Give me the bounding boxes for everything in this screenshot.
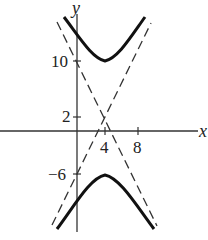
y-tick-label-neg6: −6 <box>48 165 66 184</box>
hyperbola-lower-branch <box>57 175 154 229</box>
y-tick-label-10: 10 <box>51 52 68 71</box>
asymptote-negative-slope <box>57 22 157 226</box>
x-tick-label-8: 8 <box>133 138 142 157</box>
y-tick-label-2: 2 <box>62 107 71 126</box>
x-tick-label-4: 4 <box>100 138 109 157</box>
x-axis-label: x <box>198 121 207 141</box>
hyperbola-upper-branch <box>64 17 145 61</box>
y-axis-label: y <box>70 0 80 18</box>
hyperbola-plot: y x 4 8 10 2 −6 <box>0 0 208 240</box>
plot-canvas: y x 4 8 10 2 −6 <box>0 0 208 240</box>
